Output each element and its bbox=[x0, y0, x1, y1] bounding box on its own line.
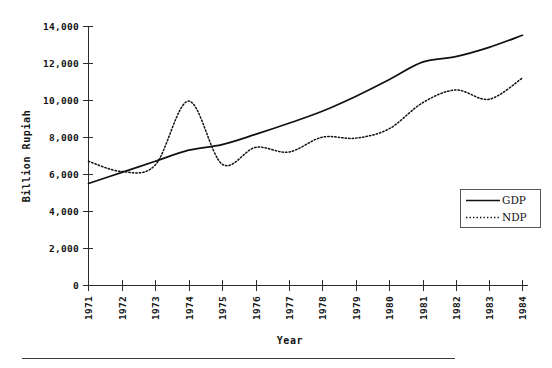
y-tick-label: 8,000 bbox=[49, 132, 79, 143]
x-tick-label-1983: 1983 bbox=[484, 296, 495, 320]
y-tick-label: 12,000 bbox=[43, 58, 79, 69]
x-tick-label-1982: 1982 bbox=[451, 296, 462, 320]
x-tick-label-1978: 1978 bbox=[317, 296, 328, 320]
y-tick-label: 2,000 bbox=[49, 243, 79, 254]
x-tick-label-1979: 1979 bbox=[351, 296, 362, 320]
x-tick-label-1972: 1972 bbox=[117, 296, 128, 320]
series-line-ndp bbox=[89, 78, 523, 173]
chart-figure: 14,000 12,000 10,000 8,000 6,000 4,000 2… bbox=[0, 0, 552, 368]
x-tick-label-1981: 1981 bbox=[418, 296, 429, 320]
y-tick-label: 10,000 bbox=[43, 95, 79, 106]
x-axis-title: Year bbox=[277, 335, 303, 346]
chart-legend[interactable]: GDP NDP bbox=[461, 190, 541, 228]
legend-label-ndp: NDP bbox=[502, 211, 527, 223]
x-tick-label-1980: 1980 bbox=[384, 296, 395, 320]
legend-box bbox=[461, 190, 541, 228]
y-tick-label: 6,000 bbox=[49, 169, 79, 180]
x-tick-labels: 1971 1972 1973 1974 1975 1976 1977 1978 … bbox=[83, 296, 528, 320]
x-tick-label-1976: 1976 bbox=[251, 296, 262, 320]
legend-label-gdp: GDP bbox=[502, 194, 526, 206]
y-tick-label: 4,000 bbox=[49, 206, 79, 217]
series-line-gdp bbox=[89, 35, 523, 183]
x-tick-label-1973: 1973 bbox=[150, 296, 161, 320]
x-tick-label-1975: 1975 bbox=[217, 296, 228, 320]
y-axis-title: Billion Rupiah bbox=[21, 110, 32, 203]
y-tick-label: 0 bbox=[73, 280, 79, 291]
chart-canvas: 14,000 12,000 10,000 8,000 6,000 4,000 2… bbox=[0, 0, 552, 368]
x-tick-label-1974: 1974 bbox=[184, 296, 195, 320]
x-tick-label-1977: 1977 bbox=[284, 296, 295, 320]
y-tick-labels: 14,000 12,000 10,000 8,000 6,000 4,000 2… bbox=[43, 21, 79, 291]
y-tick-label: 14,000 bbox=[43, 21, 79, 32]
x-tick-label-1971: 1971 bbox=[83, 296, 94, 320]
x-tick-label-1984: 1984 bbox=[517, 296, 528, 320]
